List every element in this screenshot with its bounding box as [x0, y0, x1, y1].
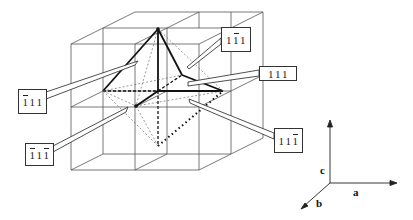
digit-barred: 1 [29, 149, 36, 161]
axis-label-c: c [320, 164, 325, 176]
digit-barred: 1 [22, 96, 29, 108]
digit: 1 [36, 149, 43, 161]
digit: 1 [275, 68, 282, 80]
octahedron [103, 27, 223, 146]
crystal-lattice-diagram [0, 0, 413, 220]
axis-label-b: b [316, 197, 322, 209]
plane-label-lower-right: 111 [274, 128, 303, 153]
digit: 1 [268, 68, 275, 80]
plane-label-top-right: 111 [221, 27, 251, 52]
digit: 1 [36, 96, 43, 108]
digit-barred: 1 [233, 34, 240, 46]
plane-label-left-lower: 111 [25, 143, 54, 166]
digit-barred: 1 [43, 149, 50, 161]
digit: 1 [278, 135, 285, 147]
axis-label-a: a [353, 186, 359, 198]
callout-pointers [46, 38, 274, 152]
plane-label-right: 111 [259, 66, 297, 81]
digit: 1 [29, 96, 36, 108]
digit: 1 [282, 68, 289, 80]
digit: 1 [285, 135, 292, 147]
digit: 1 [240, 34, 247, 46]
digit: 1 [226, 34, 233, 46]
plane-label-left-upper: 111 [18, 89, 47, 114]
digit-barred: 1 [292, 135, 299, 147]
axis-triad [301, 120, 397, 209]
